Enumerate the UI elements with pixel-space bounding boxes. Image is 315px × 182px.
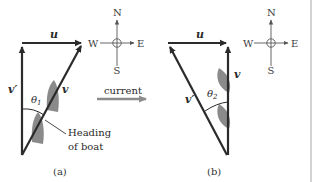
label-u: u [50, 28, 58, 41]
panel-b: u v v′ θ2 (b) N S E W [168, 7, 298, 177]
compass-rose: N S E W [88, 7, 144, 76]
compass-south: S [268, 65, 275, 76]
caption-b: (b) [207, 166, 221, 177]
compass-north: N [267, 7, 276, 18]
label-v: v [234, 68, 241, 81]
label-u: u [196, 28, 204, 41]
relative-velocity-diagram: u v′ v θ1 Heading of boat (a) N S E W cu… [0, 0, 315, 182]
heading-label-line2: of boat [68, 141, 103, 152]
current-label: current [104, 85, 142, 96]
angle-arc [22, 109, 44, 115]
diagram-canvas: u v′ v θ1 Heading of boat (a) N S E W cu… [0, 0, 315, 182]
compass-east: E [137, 38, 144, 49]
angle-theta-1: θ1 [31, 94, 42, 107]
compass-west: W [243, 38, 254, 49]
compass-east: E [291, 38, 298, 49]
current-indicator: current [97, 85, 146, 99]
compass-north: N [113, 7, 122, 18]
heading-label-line1: Heading [68, 127, 112, 138]
angle-theta-2: θ2 [207, 88, 218, 101]
caption-a: (a) [53, 166, 67, 177]
label-v: v [62, 83, 69, 96]
compass-west: W [88, 38, 99, 49]
compass-rose: N S E W [243, 7, 298, 76]
heading-pointer [45, 120, 66, 134]
vector-v-prime [170, 47, 227, 155]
label-v-prime: v′ [185, 93, 194, 106]
compass-south: S [114, 65, 121, 76]
label-v-prime: v′ [8, 83, 17, 96]
